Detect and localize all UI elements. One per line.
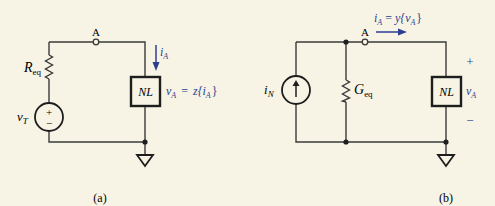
voltage-source-label: vT (17, 109, 29, 126)
current-arrow-right-icon (398, 29, 407, 36)
voltage-minus: − (466, 113, 473, 128)
ground-icon (438, 155, 454, 166)
nonlinear-element-label: NL (438, 85, 454, 99)
voltage-plus: + (466, 54, 473, 69)
junction-dot (343, 139, 348, 144)
circuit-a: A Req + − vT NL iA vA=z{iA} (a) (17, 26, 217, 205)
conductance-resistor-icon (343, 80, 350, 102)
wire-b-bottom (296, 104, 446, 142)
junction-dot (142, 139, 147, 144)
resistor-label: Req (23, 60, 42, 77)
caption-a: (a) (93, 191, 106, 205)
resistor-icon (46, 55, 53, 79)
voltage-source-minus: − (46, 117, 52, 129)
relation-a: vA=z{iA} (166, 84, 217, 100)
voltage-label-b: vA (466, 84, 476, 100)
caption-b: (b) (439, 191, 453, 205)
current-source-label: iN (264, 82, 275, 99)
relation-b: iA=y{vA} (374, 11, 422, 27)
circuit-diagram: A Req + − vT NL iA vA=z{iA} (a) (0, 0, 495, 206)
node-a-label: A (361, 26, 369, 38)
wire-a-top-2 (99, 42, 145, 77)
current-arrow-down-icon (153, 62, 160, 71)
wire-b-top-2 (368, 42, 446, 77)
wire-a-bottom (49, 131, 145, 142)
conductance-label: Geq (354, 82, 373, 99)
junction-dot (343, 39, 348, 44)
circuit-b: A iN Geq NL iA=y{vA} + vA − (b) (264, 11, 476, 205)
nonlinear-element-label: NL (137, 85, 153, 99)
node-a-terminal-icon (362, 39, 368, 45)
node-a-terminal-icon (93, 39, 99, 45)
current-label-a: iA (160, 45, 168, 61)
ground-icon (137, 155, 153, 166)
junction-dot (443, 139, 448, 144)
node-a-label: A (92, 26, 100, 38)
